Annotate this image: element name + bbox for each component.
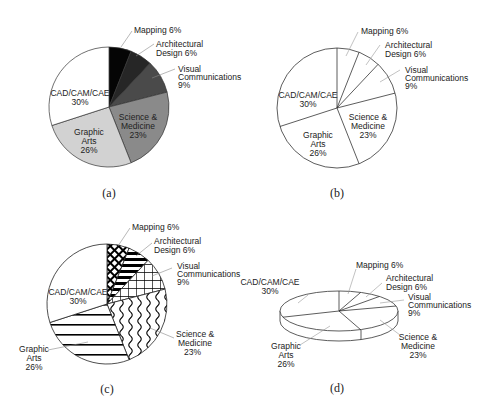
pie-chart-a xyxy=(49,47,169,167)
label-arch-2: Design 6% xyxy=(385,49,427,59)
caption-c: (c) xyxy=(100,382,113,396)
label-mapping: Mapping 6% xyxy=(132,222,180,232)
label-graphic-3: 26% xyxy=(80,145,97,155)
label-visual-3: 9% xyxy=(177,277,190,287)
label-visual-3: 9% xyxy=(405,81,418,91)
label-cad-2: 30% xyxy=(69,296,86,306)
label-arch-2: Design 6% xyxy=(386,282,428,292)
label-mapping: Mapping 6% xyxy=(356,260,404,270)
label-mapping: Mapping 6% xyxy=(134,25,182,35)
label-graphic-3: 26% xyxy=(309,148,326,158)
label-cad-2: 30% xyxy=(261,286,278,296)
label-graphic-3: 26% xyxy=(277,359,294,369)
label-science-3: 23% xyxy=(184,347,201,357)
label-mapping: Mapping 6% xyxy=(361,26,409,36)
pie-chart-figure: Mapping 6% Architectural Design 6% Visua… xyxy=(0,0,485,414)
pie-chart-d xyxy=(280,291,398,341)
label-visual-3: 9% xyxy=(178,80,191,90)
label-cad-2: 30% xyxy=(71,97,88,107)
caption-a: (a) xyxy=(102,186,115,200)
pie-chart-b xyxy=(277,48,397,168)
label-science-3: 23% xyxy=(129,130,146,140)
pie-chart-c xyxy=(47,244,167,364)
label-arch-2: Design 6% xyxy=(154,245,196,255)
label-arch-2: Design 6% xyxy=(156,48,198,58)
label-cad-2: 30% xyxy=(299,99,316,109)
caption-b: (b) xyxy=(330,186,344,200)
label-science-3: 23% xyxy=(359,130,376,140)
label-visual-3: 9% xyxy=(408,308,421,318)
label-science-3: 23% xyxy=(409,350,426,360)
caption-d: (d) xyxy=(330,381,344,395)
label-graphic-3: 26% xyxy=(25,362,42,372)
